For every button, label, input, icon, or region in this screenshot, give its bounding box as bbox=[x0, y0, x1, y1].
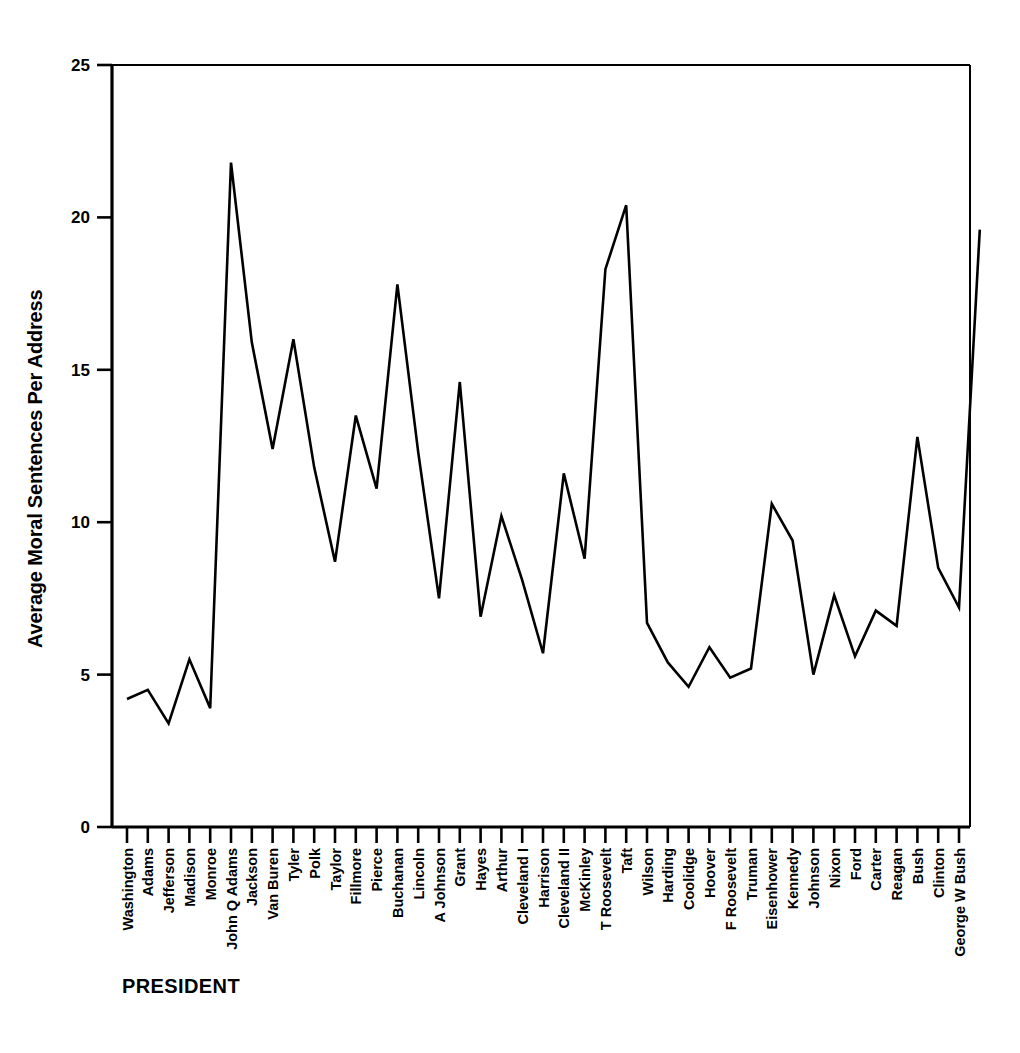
x-tick-label: Monroe bbox=[203, 848, 219, 900]
x-tick-label: Lincoln bbox=[411, 848, 427, 900]
x-tick-label: Cleveland I bbox=[515, 848, 531, 925]
data-series-line bbox=[127, 163, 980, 724]
x-tick-label: Harrison bbox=[536, 848, 552, 908]
x-tick-label: Eisenhower bbox=[764, 848, 780, 930]
x-tick-label: Cleveland II bbox=[556, 848, 572, 929]
x-tick-label: Arthur bbox=[494, 848, 510, 893]
x-tick-label: Jackson bbox=[244, 848, 260, 906]
x-axis-tick-labels: WashingtonAdamsJeffersonMadisonMonroeJoh… bbox=[120, 847, 968, 957]
x-tick-label: Fillmore bbox=[348, 848, 364, 904]
y-tick-label: 25 bbox=[71, 56, 90, 75]
x-tick-label: T Roosevelt bbox=[598, 848, 614, 930]
x-tick-label: Clinton bbox=[931, 848, 947, 898]
x-tick-label: George W Bush bbox=[952, 848, 968, 957]
y-tick-label: 10 bbox=[71, 513, 90, 532]
x-tick-label: Harding bbox=[660, 848, 676, 903]
x-tick-label: Bush bbox=[910, 848, 926, 884]
y-tick-label: 15 bbox=[71, 361, 90, 380]
x-tick-label: Taft bbox=[619, 848, 635, 874]
x-tick-label: A Johnson bbox=[432, 848, 448, 922]
y-tick-label: 5 bbox=[81, 666, 90, 685]
y-axis-ticks: 0510152025 bbox=[71, 56, 112, 837]
x-tick-label: John Q Adams bbox=[224, 848, 240, 950]
x-tick-label: Grant bbox=[452, 848, 468, 887]
x-axis-ticks bbox=[127, 827, 959, 843]
x-tick-label: Truman bbox=[744, 848, 760, 900]
x-tick-label: Ford bbox=[848, 848, 864, 880]
line-chart-plot: 0510152025 WashingtonAdamsJeffersonMadis… bbox=[0, 0, 1020, 1053]
x-tick-label: Hoover bbox=[702, 848, 718, 898]
x-tick-label: Hayes bbox=[473, 848, 489, 891]
x-tick-label: Nixon bbox=[827, 848, 843, 888]
x-tick-label: Polk bbox=[307, 847, 323, 879]
x-tick-label: Tyler bbox=[286, 848, 302, 882]
x-tick-label: Coolidge bbox=[681, 848, 697, 910]
y-tick-label: 0 bbox=[81, 818, 90, 837]
x-tick-label: Wilson bbox=[640, 848, 656, 895]
x-tick-label: F Roosevelt bbox=[723, 848, 739, 930]
x-tick-label: Pierce bbox=[369, 848, 385, 892]
x-tick-label: Johnson bbox=[806, 848, 822, 908]
chart-figure: Average Moral Sentences Per Address PRES… bbox=[0, 0, 1020, 1053]
axes bbox=[112, 65, 970, 827]
x-tick-label: Washington bbox=[120, 848, 136, 930]
x-tick-label: Van Buren bbox=[265, 848, 281, 920]
x-tick-label: Buchanan bbox=[390, 848, 406, 918]
x-tick-label: Taylor bbox=[328, 848, 344, 891]
x-tick-label: Jefferson bbox=[161, 848, 177, 913]
y-tick-label: 20 bbox=[71, 208, 90, 227]
x-tick-label: Kennedy bbox=[785, 848, 801, 909]
x-tick-label: Carter bbox=[868, 848, 884, 891]
x-tick-label: Adams bbox=[140, 848, 156, 896]
x-tick-label: McKinley bbox=[577, 848, 593, 912]
x-tick-label: Reagan bbox=[889, 848, 905, 900]
x-tick-label: Madison bbox=[182, 848, 198, 907]
